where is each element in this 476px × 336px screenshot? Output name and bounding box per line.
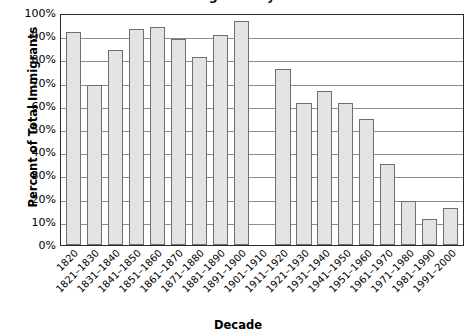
bar-series — [61, 15, 463, 245]
bar-slot — [147, 15, 168, 245]
bar-slot — [210, 15, 231, 245]
bar-slot — [63, 15, 84, 245]
x-axis-tick-labels: 18201821–18301831–18401841–18501851–1860… — [60, 246, 464, 308]
bar[interactable] — [380, 164, 395, 245]
bar[interactable] — [443, 208, 458, 245]
bar[interactable] — [338, 103, 353, 245]
bar[interactable] — [213, 35, 228, 245]
y-tick-label: 90% — [18, 31, 56, 42]
y-axis-tick-labels: 100%90%80%70%60%50%40%30%20%10%0% — [18, 14, 56, 246]
bar-slot — [189, 15, 210, 245]
bar[interactable] — [87, 85, 102, 245]
bar[interactable] — [317, 91, 332, 245]
bar[interactable] — [66, 32, 81, 245]
y-tick-label: 60% — [18, 101, 56, 112]
y-tick-label: 30% — [18, 170, 56, 181]
bar-slot — [440, 15, 461, 245]
bar[interactable] — [192, 57, 207, 245]
x-tick-slot: 1991–2000 — [441, 246, 462, 308]
y-tick-label: 20% — [18, 194, 56, 205]
bar-slot — [419, 15, 440, 245]
x-axis-title: Decade — [0, 318, 476, 332]
bar-slot — [335, 15, 356, 245]
bar-slot — [105, 15, 126, 245]
y-tick-label: 80% — [18, 54, 56, 65]
y-tick-label: 70% — [18, 78, 56, 89]
bar[interactable] — [171, 39, 186, 245]
bar-slot — [377, 15, 398, 245]
bar[interactable] — [401, 201, 416, 245]
bar-slot — [252, 15, 273, 245]
bar-slot — [314, 15, 335, 245]
y-tick-label: 10% — [18, 217, 56, 228]
bar-slot — [356, 15, 377, 245]
bar[interactable] — [150, 27, 165, 245]
bar-chart: Percent of Total Immigrants by Decade Pe… — [0, 0, 476, 336]
y-tick-label: 50% — [18, 124, 56, 135]
bar-slot — [231, 15, 252, 245]
plot-area — [60, 14, 464, 246]
chart-title: Percent of Total Immigrants by Decade — [60, 0, 460, 4]
bar-slot — [84, 15, 105, 245]
bar-slot — [293, 15, 314, 245]
bar[interactable] — [108, 50, 123, 245]
bar[interactable] — [359, 119, 374, 245]
bar[interactable] — [422, 219, 437, 245]
bar-slot — [126, 15, 147, 245]
bar-slot — [398, 15, 419, 245]
bar-slot — [273, 15, 294, 245]
bar[interactable] — [234, 21, 249, 245]
bar-slot — [168, 15, 189, 245]
y-tick-label: 100% — [18, 8, 56, 19]
y-tick-label: 0% — [18, 240, 56, 251]
bar[interactable] — [129, 29, 144, 245]
bar[interactable] — [275, 69, 290, 245]
y-tick-label: 40% — [18, 147, 56, 158]
bar[interactable] — [296, 103, 311, 245]
